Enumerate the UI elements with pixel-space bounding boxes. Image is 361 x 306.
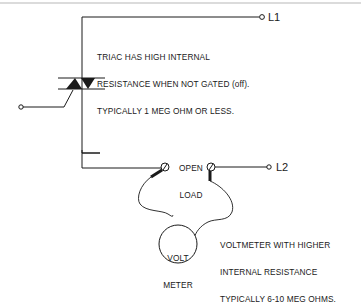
gate-lead bbox=[19, 90, 73, 109]
open-load-line-1: OPEN bbox=[174, 164, 208, 173]
voltmeter-note-line-3: TYPICALLY 6-10 MEG OHMS. bbox=[220, 295, 336, 304]
gate-terminal-icon bbox=[19, 105, 23, 109]
triac-note-line-2: RESISTANCE WHEN NOT GATED (off). bbox=[97, 80, 249, 89]
voltmeter-lead-left bbox=[138, 170, 173, 216]
voltmeter-note: VOLTMETER WITH HIGHER INTERNAL RESISTANC… bbox=[220, 223, 336, 306]
l2-label: L2 bbox=[276, 161, 288, 173]
triac-note-line-1: TRIAC HAS HIGH INTERNAL bbox=[97, 53, 249, 62]
voltmeter-line-2: METER bbox=[160, 281, 196, 290]
triac-note-line-3: TYPICALLY 1 MEG OHM OR LESS. bbox=[97, 107, 249, 116]
triac-note: TRIAC HAS HIGH INTERNAL RESISTANCE WHEN … bbox=[97, 35, 249, 134]
l1-label: L1 bbox=[268, 11, 280, 23]
open-load-label: OPEN LOAD bbox=[174, 146, 208, 218]
l2-terminal-icon bbox=[267, 165, 271, 169]
open-load-terminal-right-icon bbox=[207, 163, 215, 171]
probe-tip-left-icon bbox=[151, 170, 162, 177]
l1-terminal-icon bbox=[260, 15, 265, 20]
open-load-terminal-left-icon bbox=[161, 163, 169, 171]
voltmeter-line-1: VOLT bbox=[160, 254, 196, 263]
voltmeter-note-line-2: INTERNAL RESISTANCE bbox=[220, 268, 336, 277]
voltmeter-note-line-1: VOLTMETER WITH HIGHER bbox=[220, 241, 336, 250]
voltmeter-label: VOLT METER bbox=[160, 236, 196, 306]
open-load-line-2: LOAD bbox=[174, 191, 208, 200]
l2-wire bbox=[215, 165, 271, 169]
